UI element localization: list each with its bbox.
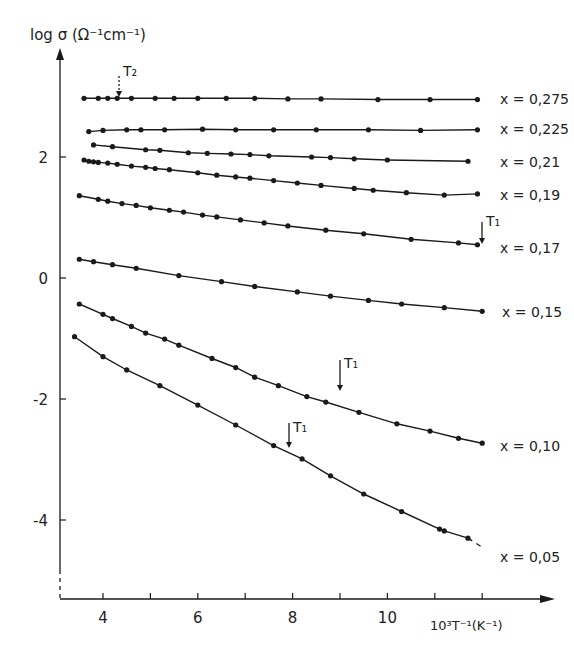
data-point [214,214,219,219]
series-line [84,160,478,195]
data-point [394,421,399,426]
data-point [233,174,238,179]
t1-005-arrow-icon [286,442,292,448]
x-tick-label: 4 [98,609,108,627]
data-point [361,231,366,236]
data-point [304,394,309,399]
data-point [427,97,432,102]
series-label: x = 0,21 [500,154,560,170]
series-line [94,145,469,161]
data-point [91,259,96,264]
data-point [224,96,229,101]
series-label: x = 0,19 [500,187,560,203]
conductivity-chart: 4681020-2-4 x = 0,275x = 0,225x = 0,21x … [0,0,574,653]
data-point [385,157,390,162]
data-point [172,96,177,101]
y-axis-label: log σ (Ω⁻¹cm⁻¹) [30,26,146,44]
series-label: x = 0,17 [500,240,560,256]
x-tick-label: 10 [378,609,397,627]
data-point [143,147,148,152]
data-point [233,422,238,427]
data-point [399,301,404,306]
data-point [285,223,290,228]
series-label: x = 0,225 [500,121,569,137]
data-point [214,173,219,178]
data-point [442,528,447,533]
t2-label: T₂ [122,63,137,79]
series-line [79,196,477,245]
data-point [233,365,238,370]
data-point [318,96,323,101]
data-point [91,159,96,164]
data-point [352,156,357,161]
data-point [157,148,162,153]
data-point [143,330,148,335]
data-point [129,324,134,329]
data-point [247,176,252,181]
data-point [233,127,238,132]
data-point [328,155,333,160]
x-tick-label: 6 [193,609,203,627]
data-point [323,228,328,233]
series-021: x = 0,21 [91,142,560,170]
data-point [138,127,143,132]
data-point [115,162,120,167]
data-point [266,153,271,158]
data-point [361,491,366,496]
series-005: x = 0,05 [72,334,560,565]
data-point [252,284,257,289]
data-point [124,127,129,132]
data-point [399,509,404,514]
data-point [465,536,470,541]
data-point [375,97,380,102]
data-point [465,159,470,164]
data-point [437,526,442,531]
data-point [110,316,115,321]
y-tick-label: -4 [33,512,48,530]
data-point [110,144,115,149]
data-point [475,242,480,247]
data-point [418,128,423,133]
data-point [318,183,323,188]
data-point [442,305,447,310]
data-point [181,209,186,214]
data-point [366,298,371,303]
series-label: x = 0,05 [500,549,560,565]
data-point [480,441,485,446]
data-point [96,160,101,165]
data-point [167,167,172,172]
data-point [153,96,158,101]
data-point [209,356,214,361]
data-point [475,97,480,102]
data-point [176,343,181,348]
t1-010-label: T₁ [343,355,358,371]
data-point [143,165,148,170]
data-point [105,96,110,101]
data-point [129,163,134,168]
data-point [200,127,205,132]
data-point [124,367,129,372]
data-point [162,127,167,132]
series-line [75,337,468,538]
data-point [157,383,162,388]
data-point [77,193,82,198]
annotations: T₂T₁T₁T₁ [116,63,500,448]
axes: 4681020-2-4 [33,48,555,627]
x-axis-arrow-icon [540,595,555,603]
data-point [356,410,361,415]
data-point [205,151,210,156]
data-point [153,166,158,171]
data-point [295,180,300,185]
data-point [228,151,233,156]
data-point [328,473,333,478]
series-line [79,304,482,443]
data-point [475,127,480,132]
series-layer: x = 0,275x = 0,225x = 0,21x = 0,19x = 0,… [72,91,569,566]
data-point [77,257,82,262]
data-point [480,309,485,314]
data-point [91,142,96,147]
data-point [219,279,224,284]
data-point [323,399,328,404]
data-point [314,127,319,132]
data-point [295,289,300,294]
